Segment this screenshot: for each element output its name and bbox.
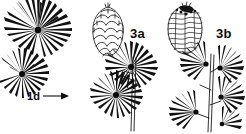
figure-artwork: [0, 0, 246, 134]
botanical-figure: 3a 3b 1d: [0, 0, 246, 134]
figure-label-3b: 3b: [216, 27, 232, 40]
figure-label-1d: 1d: [27, 91, 40, 102]
figure-label-3a: 3a: [130, 27, 145, 40]
